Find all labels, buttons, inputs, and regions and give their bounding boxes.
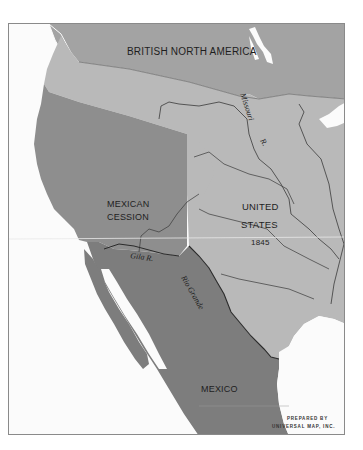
label-mexico: MEXICO [201,384,238,394]
label-mexican-cession-line1: MEXICAN [107,199,149,209]
map-graphic [9,24,345,435]
label-mexican-cession-line2: CESSION [107,212,149,222]
credit-line1: PREPARED BY [287,416,328,421]
label-united-states-line1: UNITED [242,201,279,212]
label-united-states-line2: STATES [241,219,278,230]
label-united-states-year: 1845 [251,238,270,247]
credit-line2: UNIVERSAL MAP, INC. [272,424,335,429]
label-british-north-america: BRITISH NORTH AMERICA [127,46,257,57]
map-frame: BRITISH NORTH AMERICA MEXICAN CESSION UN… [8,23,345,435]
